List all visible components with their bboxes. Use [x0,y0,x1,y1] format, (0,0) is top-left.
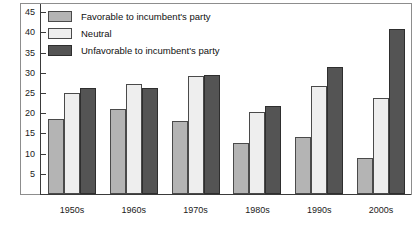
legend-swatch-neutral-icon [48,28,72,39]
bar-chart: 51015202530354045 1950s1960s1970s1980s19… [0,0,416,233]
y-axis-tick-label: 35 [13,48,35,57]
legend-swatch-favorable-icon [48,11,72,22]
y-axis-tick-label: 40 [13,28,35,37]
legend-label-unfavorable: Unfavorable to incumbent's party [81,46,220,56]
bar-2000s-favorable [357,158,373,194]
bar-2000s-neutral [373,98,389,194]
x-axis-line [40,194,411,195]
y-axis-tick-label: 45 [13,8,35,17]
legend-label-neutral: Neutral [81,29,112,39]
y-axis-tick-label: 30 [13,68,35,77]
x-axis-label-1960s: 1960s [121,205,146,215]
x-axis-label-1950s: 1950s [60,205,85,215]
bar-1990s-unfavorable [327,67,343,194]
y-axis-tick-label: 25 [13,88,35,97]
bar-1960s-unfavorable [142,88,158,194]
bar-1960s-neutral [126,84,142,194]
bar-1960s-favorable [110,109,126,194]
legend-item-neutral: Neutral [48,25,220,42]
x-axis-label-1970s: 1970s [183,205,208,215]
bar-1950s-neutral [64,93,80,194]
chart-legend: Favorable to incumbent's party Neutral U… [48,8,220,59]
legend-swatch-unfavorable-icon [48,45,72,56]
legend-label-favorable: Favorable to incumbent's party [81,12,211,22]
bar-1980s-unfavorable [265,106,281,194]
legend-item-favorable: Favorable to incumbent's party [48,8,220,25]
bar-1970s-neutral [188,76,204,194]
bar-1970s-unfavorable [204,75,220,194]
bar-1990s-neutral [311,86,327,194]
bar-1950s-unfavorable [80,88,96,194]
bar-1970s-favorable [172,121,188,194]
x-axis-label-1980s: 1980s [245,205,270,215]
y-axis-tick-label: 10 [13,149,35,158]
y-axis-tick-label: 15 [13,129,35,138]
x-axis-label-1990s: 1990s [307,205,332,215]
bar-1990s-favorable [295,137,311,194]
y-axis-tick-label: 20 [13,109,35,118]
legend-item-unfavorable: Unfavorable to incumbent's party [48,42,220,59]
x-axis-label-2000s: 2000s [369,205,394,215]
bar-2000s-unfavorable [389,29,405,194]
bar-1980s-neutral [249,112,265,194]
bar-1980s-favorable [233,143,249,194]
y-axis-tick-label: 5 [13,169,35,178]
bar-1950s-favorable [48,119,64,194]
